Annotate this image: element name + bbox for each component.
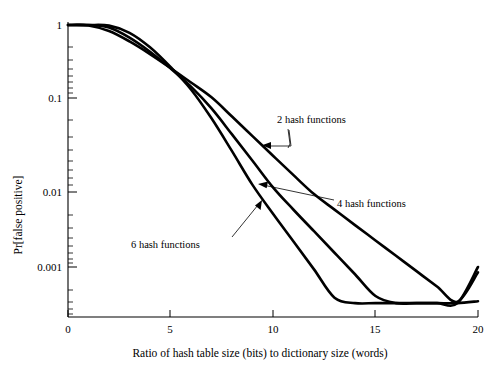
y-tick-label-0.001: 0.001 (37, 261, 62, 273)
x-axis-title: Ratio of hash table size (bits) to dicti… (132, 347, 387, 360)
curve-6-hash-functions (68, 25, 478, 304)
x-tick-label-0: 0 (65, 323, 71, 335)
y-tick-label-1: 1 (57, 19, 63, 31)
annotation-6-hash: 6 hash functions (131, 200, 262, 250)
x-tick-label-10: 10 (268, 323, 280, 335)
y-axis-major-ticks (68, 25, 77, 267)
annotation-2-hash: 2 hash functions (262, 114, 346, 149)
annotation-arrow-6-hash (255, 200, 262, 210)
x-tick-label-5: 5 (167, 323, 173, 335)
y-axis-title: Pr[false positive] (12, 176, 25, 255)
x-axis-ticks (68, 310, 478, 317)
curve-2-hash-functions (68, 25, 478, 302)
y-tick-label-0.1: 0.1 (48, 92, 62, 104)
y-tick-label-0.01: 0.01 (43, 186, 62, 198)
y-axis-minor-ticks (68, 47, 73, 314)
x-tick-label-15: 15 (370, 323, 382, 335)
chart-root: 1 0.1 0.01 0.001 0 5 10 15 20 Ratio of h… (0, 0, 500, 379)
curve-4-hash-functions (68, 25, 478, 306)
annotation-label-2-hash: 2 hash functions (277, 114, 346, 125)
annotation-label-6-hash: 6 hash functions (131, 239, 200, 250)
annotation-arrow-4-hash (258, 181, 268, 188)
annotation-label-4-hash: 4 hash functions (337, 198, 406, 209)
false-positive-rate-chart: 1 0.1 0.01 0.001 0 5 10 15 20 Ratio of h… (0, 0, 500, 379)
x-tick-label-20: 20 (473, 323, 485, 335)
